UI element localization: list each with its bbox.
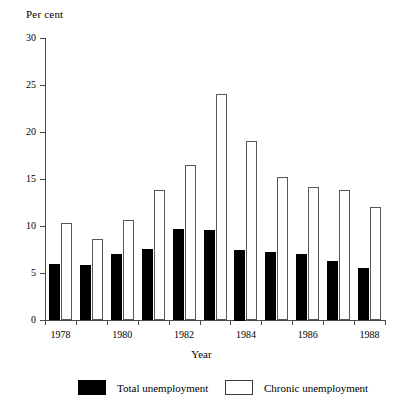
bar-chronic-1988: [370, 207, 381, 320]
y-tick-mark: [40, 226, 45, 227]
bar-chronic-1985: [277, 177, 288, 320]
x-tick-mark: [107, 320, 108, 325]
bar-total-1978: [49, 264, 60, 320]
legend-item-chronic-unemployment: Chronic unemployment: [225, 380, 368, 395]
legend-item-total-unemployment: Total unemployment: [78, 380, 208, 395]
x-tick-label: 1986: [288, 329, 328, 340]
y-tick-mark: [40, 132, 45, 133]
x-tick-label: 1982: [164, 329, 204, 340]
y-tick-mark: [40, 273, 45, 274]
y-tick-mark: [40, 38, 45, 39]
bar-chronic-1987: [339, 190, 350, 320]
y-tick-mark: [40, 179, 45, 180]
y-tick-label: 20: [14, 127, 36, 137]
bar-total-1982: [173, 229, 184, 320]
x-tick-label: 1978: [40, 329, 80, 340]
x-tick-label: 1980: [102, 329, 142, 340]
x-tick-mark: [230, 320, 231, 325]
bar-chronic-1978: [61, 223, 72, 320]
y-axis-title: Per cent: [26, 8, 63, 20]
legend-label-chronic: Chronic unemployment: [264, 382, 368, 394]
x-tick-label: 1984: [226, 329, 266, 340]
bar-total-1986: [296, 254, 307, 320]
y-tick-label: 25: [14, 80, 36, 90]
legend-swatch-total-icon: [78, 380, 106, 395]
bar-total-1985: [265, 252, 276, 320]
legend-label-total: Total unemployment: [117, 382, 208, 394]
x-axis-title: Year: [0, 348, 403, 360]
bar-chronic-1983: [216, 94, 227, 320]
y-tick-mark: [40, 85, 45, 86]
y-tick-label: 10: [14, 221, 36, 231]
x-tick-mark: [323, 320, 324, 325]
x-tick-mark: [292, 320, 293, 325]
x-tick-label: 1988: [350, 329, 390, 340]
bar-chronic-1981: [154, 190, 165, 320]
bar-chronic-1979: [92, 239, 103, 320]
bar-total-1983: [204, 230, 215, 320]
bar-total-1980: [111, 254, 122, 320]
bar-total-1987: [327, 261, 338, 320]
bar-chronic-1982: [185, 165, 196, 320]
x-tick-mark: [200, 320, 201, 325]
bar-total-1988: [358, 268, 369, 320]
x-tick-mark: [385, 320, 386, 325]
chart-legend: Total unemployment Chronic unemployment: [0, 378, 403, 408]
y-tick-label: 30: [14, 33, 36, 43]
x-tick-mark: [169, 320, 170, 325]
y-axis-line: [45, 38, 46, 321]
x-tick-mark: [76, 320, 77, 325]
bar-total-1979: [80, 265, 91, 320]
legend-swatch-chronic-icon: [225, 380, 253, 395]
bar-chronic-1980: [123, 220, 134, 320]
x-tick-mark: [45, 320, 46, 325]
bar-total-1984: [234, 250, 245, 321]
y-tick-label: 15: [14, 174, 36, 184]
x-tick-mark: [354, 320, 355, 325]
x-axis-line: [45, 320, 385, 321]
y-tick-label: 5: [14, 268, 36, 278]
x-tick-mark: [138, 320, 139, 325]
y-tick-label: 0: [14, 315, 36, 325]
chart-figure: Per cent 051015202530 197819801982198419…: [0, 0, 403, 416]
x-tick-mark: [261, 320, 262, 325]
bar-chronic-1986: [308, 187, 319, 320]
bar-total-1981: [142, 249, 153, 320]
bar-chronic-1984: [246, 141, 257, 320]
